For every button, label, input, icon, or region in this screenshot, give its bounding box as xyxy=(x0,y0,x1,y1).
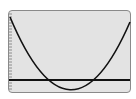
y-axis-ticks xyxy=(9,14,12,89)
parabola-curve xyxy=(10,17,130,90)
graph-plot xyxy=(0,0,136,99)
